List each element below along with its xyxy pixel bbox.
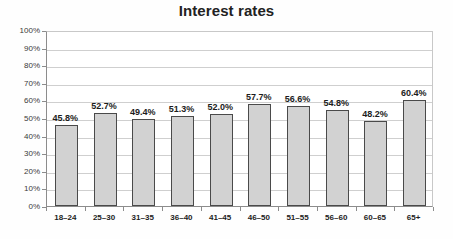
x-axis-tick-label: 65+: [394, 213, 433, 222]
x-axis-tick-mark: [201, 207, 202, 211]
bar[interactable]: [210, 114, 233, 206]
y-axis-tick-mark: [42, 101, 46, 102]
x-axis-tick-mark: [46, 207, 47, 211]
chart-title: Interest rates: [0, 2, 453, 19]
bar-slot: [287, 30, 310, 206]
bar[interactable]: [364, 121, 387, 206]
bar-data-label: 48.2%: [350, 110, 401, 119]
x-axis-tick-label: 18–24: [46, 213, 85, 222]
x-axis-tick-mark: [278, 207, 279, 211]
x-axis-tick-mark: [123, 207, 124, 211]
x-axis-tick-mark: [85, 207, 86, 211]
y-axis-tick-mark: [42, 84, 46, 85]
x-axis-tick-label: 25–30: [85, 213, 124, 222]
x-axis-tick-label: 31–35: [123, 213, 162, 222]
x-axis-tick-label: 56–60: [317, 213, 356, 222]
x-axis-tick-label: 60–65: [356, 213, 395, 222]
bar-data-label: 60.4%: [388, 89, 439, 98]
bar[interactable]: [132, 119, 155, 206]
bar[interactable]: [171, 116, 194, 206]
bar-slot: [171, 30, 194, 206]
bar-data-label: 45.8%: [40, 114, 91, 123]
y-axis-tick-mark: [42, 66, 46, 67]
x-axis-tick-label: 36–40: [162, 213, 201, 222]
x-axis-tick-label: 46–50: [240, 213, 279, 222]
x-axis-tick-mark: [317, 207, 318, 211]
bar[interactable]: [403, 100, 426, 206]
y-axis-tick-mark: [42, 31, 46, 32]
bar[interactable]: [326, 110, 349, 206]
y-axis-tick-mark: [42, 154, 46, 155]
interest-rates-bar-chart: Interest rates 0%10%20%30%40%50%60%70%80…: [0, 0, 453, 239]
y-axis-tick-label: 100%: [0, 27, 40, 35]
bar-slot: [132, 30, 155, 206]
y-axis-tick-label: 0%: [0, 203, 40, 211]
bar-data-label: 54.8%: [311, 99, 362, 108]
y-axis-tick-label: 30%: [0, 150, 40, 158]
x-axis-tick-mark: [162, 207, 163, 211]
bar-slot: [326, 30, 349, 206]
y-axis-tick-label: 70%: [0, 80, 40, 88]
y-axis-tick-label: 40%: [0, 133, 40, 141]
x-axis-tick-mark: [433, 207, 434, 211]
y-axis-tick-label: 60%: [0, 97, 40, 105]
bar-slot: [94, 30, 117, 206]
bar-slot: [210, 30, 233, 206]
bar[interactable]: [287, 106, 310, 206]
y-axis-tick-mark: [42, 189, 46, 190]
x-axis-tick-mark: [240, 207, 241, 211]
bar[interactable]: [94, 113, 117, 206]
x-axis-tick-label: 41–45: [201, 213, 240, 222]
y-axis-tick-label: 50%: [0, 115, 40, 123]
bar-slot: [248, 30, 271, 206]
y-axis-tick-mark: [42, 172, 46, 173]
x-axis-tick-label: 51–55: [278, 213, 317, 222]
y-axis-tick-label: 10%: [0, 185, 40, 193]
y-axis-tick-label: 20%: [0, 168, 40, 176]
bar-data-label: 52.0%: [195, 103, 246, 112]
bar-slot: [403, 30, 426, 206]
y-axis-tick-mark: [42, 49, 46, 50]
x-axis-tick-mark: [356, 207, 357, 211]
y-axis-tick-label: 90%: [0, 45, 40, 53]
y-axis-tick-mark: [42, 137, 46, 138]
bar[interactable]: [55, 125, 78, 206]
bar[interactable]: [248, 104, 271, 206]
x-axis-tick-mark: [394, 207, 395, 211]
y-axis-tick-label: 80%: [0, 62, 40, 70]
